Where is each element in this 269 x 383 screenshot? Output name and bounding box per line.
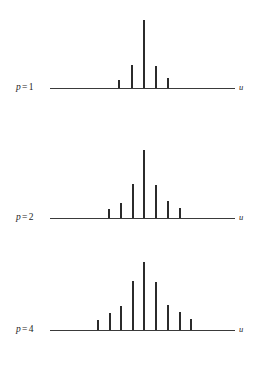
axis-line-p-2 [50, 218, 235, 219]
stem [108, 209, 110, 218]
stems-p-4 [0, 242, 269, 330]
stem [155, 282, 157, 330]
stem [120, 203, 122, 218]
stem [97, 320, 99, 330]
stem [143, 150, 145, 218]
panel-p-4: p=4 u [0, 242, 269, 383]
stems-p-2 [0, 130, 269, 218]
stem [132, 281, 134, 330]
stem [143, 262, 145, 330]
stem [120, 306, 122, 330]
stem-plot-figure: p=1 u p=2 u p=4 [0, 0, 269, 383]
stem [118, 80, 120, 88]
stem [167, 78, 169, 88]
stem [190, 319, 192, 330]
stem [179, 208, 181, 218]
stem [179, 312, 181, 330]
panel-p-1: p=1 u [0, 0, 269, 130]
axis-line-p-4 [50, 330, 235, 331]
stem [155, 185, 157, 218]
axis-line-p-1 [50, 88, 235, 89]
stem [155, 66, 157, 88]
stem [109, 313, 111, 330]
stem [167, 201, 169, 218]
stems-p-1 [0, 0, 269, 88]
stem [131, 65, 133, 88]
panel-p-2: p=2 u [0, 130, 269, 255]
stem [167, 305, 169, 330]
stem [143, 20, 145, 88]
stem [132, 184, 134, 218]
